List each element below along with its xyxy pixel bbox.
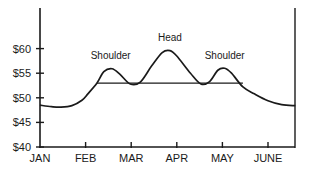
x-tick-label: JUNE xyxy=(254,152,283,164)
x-axis-ticks: JANFEBMARAPRMAYJUNE xyxy=(30,142,283,164)
annotation-label: Head xyxy=(158,32,182,43)
x-tick-label: MAR xyxy=(119,152,144,164)
price-line xyxy=(40,50,295,107)
x-tick-label: FEB xyxy=(75,152,96,164)
x-tick-label: JAN xyxy=(30,152,51,164)
y-tick-label: $60 xyxy=(13,43,31,55)
axes xyxy=(39,8,295,148)
head-and-shoulders-chart: $40$45$50$55$60 JANFEBMARAPRMAYJUNE Shou… xyxy=(0,0,311,175)
y-tick-label: $45 xyxy=(13,116,31,128)
annotation-label: Shoulder xyxy=(91,50,132,61)
y-tick-label: $40 xyxy=(13,141,31,153)
y-tick-label: $55 xyxy=(13,67,31,79)
y-tick-label: $50 xyxy=(13,92,31,104)
series-layer xyxy=(40,50,295,107)
x-tick-label: APR xyxy=(165,152,188,164)
annotation-label: Shoulder xyxy=(205,50,246,61)
x-tick-label: MAY xyxy=(211,152,235,164)
annotations: ShoulderHeadShoulder xyxy=(91,32,246,62)
